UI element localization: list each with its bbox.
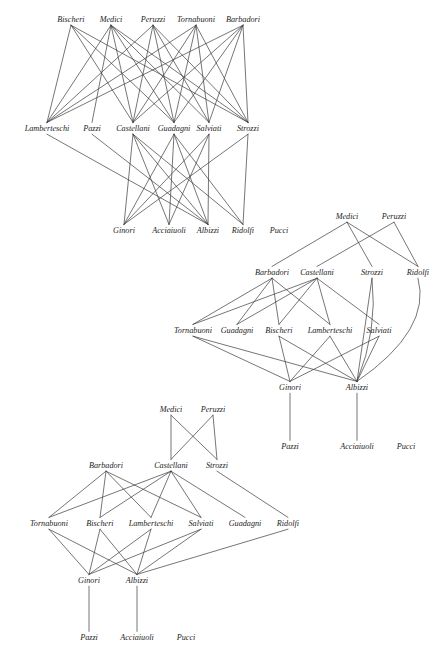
node-label-d3-bischeri: Bischeri <box>86 519 114 528</box>
node-label-d1-ridolfi: Ridolfi <box>231 226 255 235</box>
edge-lamberteschi-to-albizzi <box>47 134 208 224</box>
edge-lamberteschi-to-albizzi <box>137 529 151 574</box>
node-label-d1-pucci: Pucci <box>269 226 289 235</box>
node-label-d3-barbadori: Barbadori <box>89 461 124 470</box>
edge-barbadori-to-strozzi <box>243 25 248 122</box>
node-label-d1-peruzzi: Peruzzi <box>140 15 166 24</box>
node-label-d1-ginori: Ginori <box>113 226 136 235</box>
node-label-d1-albizzi: Albizzi <box>196 226 220 235</box>
edge-castellani-to-guadagni <box>237 278 317 324</box>
edge-bischeri-to-lamberteschi <box>47 25 71 122</box>
node-label-d2-barbadori: Barbadori <box>255 268 290 277</box>
edge-strozzi-to-ridolfi <box>243 134 248 224</box>
node-label-d3-strozzi: Strozzi <box>206 461 229 470</box>
node-label-d2-salviati: Salviati <box>366 326 392 335</box>
edge-peruzzi-to-ridolfi <box>394 222 418 266</box>
node-label-d2-acciaiuoli: Acciaiuoli <box>339 442 374 451</box>
edge-medici-to-salviati <box>111 25 209 122</box>
edge-bischeri-to-strozzi <box>71 25 248 122</box>
node-label-d2-bischeri: Bischeri <box>265 326 293 335</box>
edge-barbadori-to-lamberteschi <box>106 471 151 517</box>
figure-canvas: BischeriMediciPeruzziTornabuoniBarbadori… <box>0 0 445 660</box>
node-label-d3-salviati: Salviati <box>188 519 214 528</box>
node-label-d3-guadagni: Guadagni <box>229 519 262 528</box>
node-label-d3-tornabuoni: Tornabuoni <box>30 519 69 528</box>
edge-barbadori-to-tornabuoni <box>193 278 272 324</box>
node-label-d3-pucci: Pucci <box>176 633 196 642</box>
node-label-d1-acciaiuoli: Acciaiuoli <box>151 226 186 235</box>
edge-bischeri-to-albizzi <box>279 336 357 381</box>
edge-castellani-to-albizzi <box>133 134 208 224</box>
node-label-d2-medici: Medici <box>335 212 359 221</box>
edge-peruzzi-to-castellani <box>171 415 213 459</box>
node-label-d1-barbadori: Barbadori <box>226 15 261 24</box>
node-label-d1-pazzi: Pazzi <box>82 124 101 133</box>
edge-castellani-to-acciaiuoli <box>133 134 169 224</box>
edge-barbadori-to-tornabuoni <box>49 471 106 517</box>
edge-guadagni-to-acciaiuoli <box>169 134 174 224</box>
node-label-d3-albizzi: Albizzi <box>125 576 149 585</box>
node-label-d1-guadagni: Guadagni <box>158 124 191 133</box>
edge-medici-to-strozzi <box>171 415 217 459</box>
edge-castellani-to-lamberteschi <box>317 278 330 324</box>
edge-lamberteschi-to-ginori <box>290 336 330 381</box>
edge-strozzi-to-ginori <box>124 134 248 224</box>
node-label-d3-ginori: Ginori <box>78 576 101 585</box>
edge-barbadori-to-castellani <box>133 25 243 122</box>
edge-medici-to-strozzi <box>111 25 248 122</box>
edge-peruzzi-to-guadagni <box>153 25 174 122</box>
layered-graph-drawings-svg: BischeriMediciPeruzziTornabuoniBarbadori… <box>0 0 445 660</box>
node-label-d2-albizzi: Albizzi <box>345 383 369 392</box>
node-label-d2-strozzi: Strozzi <box>361 268 384 277</box>
node-label-d2-lamberteschi: Lamberteschi <box>307 326 353 335</box>
edge-barbadori-to-bischeri <box>272 278 279 324</box>
edge-bischeri-to-castellani <box>71 25 133 122</box>
node-label-d2-ginori: Ginori <box>279 383 302 392</box>
node-label-d3-pazzi: Pazzi <box>79 633 98 642</box>
node-label-d1-strozzi: Strozzi <box>237 124 260 133</box>
node-label-d3-ridolfi: Ridolfi <box>276 519 300 528</box>
node-label-d1-bischeri: Bischeri <box>57 15 85 24</box>
node-label-d2-pazzi: Pazzi <box>280 442 299 451</box>
edge-peruzzi-to-strozzi <box>213 415 217 459</box>
node-label-d2-guadagni: Guadagni <box>221 326 254 335</box>
node-label-d1-castellani: Castellani <box>116 124 150 133</box>
node-label-d1-lamberteschi: Lamberteschi <box>24 124 70 133</box>
node-label-d2-castellani: Castellani <box>300 268 334 277</box>
edge-salviati-to-albizzi <box>208 134 209 224</box>
node-label-d2-tornabuoni: Tornabuoni <box>174 326 213 335</box>
edge-barbadori-to-bischeri <box>100 471 106 517</box>
edge-salviati-to-albizzi <box>137 529 201 574</box>
edge-strozzi-to-ridolfi <box>217 471 288 517</box>
node-label-d3-peruzzi: Peruzzi <box>200 405 226 414</box>
edge-ridolfi-to-albizzi <box>137 529 288 574</box>
edge-medici-to-strozzi <box>347 222 372 266</box>
node-label-d2-pucci: Pucci <box>396 442 416 451</box>
edge-castellani-to-salviati <box>317 278 379 324</box>
edge-barbadori-to-guadagni <box>174 25 243 122</box>
edge-tornabuoni-to-albizzi <box>49 529 137 574</box>
node-label-d2-ridolfi: Ridolfi <box>406 268 430 277</box>
node-label-d1-salviati: Salviati <box>196 124 222 133</box>
node-label-d3-castellani: Castellani <box>154 461 188 470</box>
edge-salviati-to-ginori <box>290 336 379 381</box>
edge-tornabuoni-to-salviati <box>196 25 209 122</box>
edge-castellani-to-guadagni <box>171 471 245 517</box>
edge-bischeri-to-guadagni <box>71 25 174 122</box>
edge-peruzzi-to-lamberteschi <box>47 25 153 122</box>
node-label-d3-medici: Medici <box>159 405 183 414</box>
node-label-d1-tornabuoni: Tornabuoni <box>177 15 216 24</box>
edge-barbadori-to-lamberteschi <box>272 278 330 324</box>
node-label-d3-lamberteschi: Lamberteschi <box>128 519 174 528</box>
edge-bischeri-to-ginori <box>279 336 290 381</box>
node-label-d1-medici: Medici <box>99 15 123 24</box>
edge-tornabuoni-to-ginori <box>49 529 89 574</box>
edge-tornabuoni-to-lamberteschi <box>47 25 196 122</box>
edge-barbadori-to-lamberteschi <box>47 25 243 122</box>
node-labels-group: BischeriMediciPeruzziTornabuoniBarbadori… <box>24 15 430 642</box>
node-label-d2-peruzzi: Peruzzi <box>381 212 407 221</box>
edge-tornabuoni-to-guadagni <box>174 25 196 122</box>
node-label-d3-acciaiuoli: Acciaiuoli <box>119 633 154 642</box>
